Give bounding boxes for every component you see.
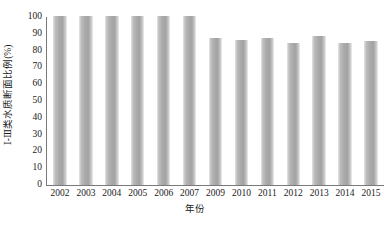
- y-axis-tick-label: 50: [33, 96, 43, 106]
- bar: [287, 43, 300, 185]
- y-axis-tick-label: 30: [33, 130, 43, 140]
- y-axis-tick-label: 90: [33, 29, 43, 39]
- bar: [338, 43, 351, 185]
- x-axis-tick-label: 2013: [310, 189, 329, 199]
- y-axis-title-text: Ⅰ-Ⅲ类水质断面比例(%): [4, 45, 14, 145]
- x-axis-tick-label: 2009: [206, 189, 225, 199]
- x-axis-tick-label: 2011: [258, 189, 277, 199]
- x-axis-title: 年份: [0, 205, 390, 215]
- x-axis-tick-label: 2015: [362, 189, 381, 199]
- y-axis-tick-label: 40: [33, 113, 43, 123]
- y-axis-tick-label: 20: [33, 147, 43, 157]
- y-axis-tick-label: 70: [33, 63, 43, 73]
- bar: [261, 38, 274, 185]
- bar-chart-figure: Ⅰ-Ⅲ类水质断面比例(%) 0102030405060708090100 200…: [0, 0, 390, 230]
- bar: [157, 16, 170, 185]
- y-axis-tick-label: 0: [37, 180, 42, 190]
- x-axis-tick-label: 2010: [232, 189, 251, 199]
- y-axis-title: Ⅰ-Ⅲ类水质断面比例(%): [0, 0, 18, 190]
- bar: [53, 16, 66, 185]
- y-axis-tick-label: 60: [33, 79, 43, 89]
- x-axis-tick-label: 2005: [128, 189, 147, 199]
- x-axis-line: [46, 185, 384, 186]
- x-axis-tick-label: 2012: [284, 189, 303, 199]
- x-axis-tick-label: 2007: [180, 189, 199, 199]
- bar: [131, 16, 144, 185]
- x-axis-tick-label: 2002: [50, 189, 69, 199]
- bar: [105, 16, 118, 185]
- x-axis-tick-labels: 2002200320042005200620072009201020112012…: [47, 189, 385, 203]
- y-axis-tick-labels: 0102030405060708090100: [18, 11, 44, 187]
- bar: [312, 36, 325, 185]
- y-axis-tick-label: 10: [33, 163, 43, 173]
- x-axis-tick-label: 2014: [336, 189, 355, 199]
- bar: [183, 16, 196, 185]
- y-axis-tick-label: 100: [28, 12, 42, 22]
- x-axis-tick-label: 2003: [76, 189, 95, 199]
- y-axis-tick-label: 80: [33, 46, 43, 56]
- bars-layer: [47, 17, 384, 185]
- bar: [364, 41, 377, 185]
- x-axis-tick-label: 2006: [154, 189, 173, 199]
- plot-area: [46, 17, 384, 186]
- x-axis-tick-label: 2004: [102, 189, 121, 199]
- bar: [209, 38, 222, 185]
- bar: [79, 16, 92, 185]
- bar: [235, 40, 248, 185]
